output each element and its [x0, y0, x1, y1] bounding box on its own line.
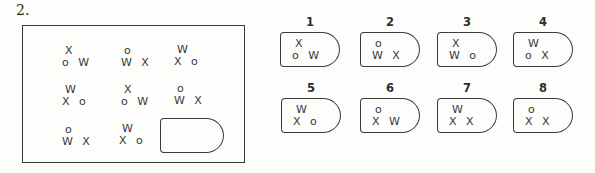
cell-bottom-letters: o W — [62, 57, 90, 68]
puzzle-matrix-box: X o W o W X W X o W X o X o W o W X o W … — [22, 25, 245, 163]
option-top-letter: X — [295, 38, 339, 49]
option-shape-3[interactable]: X W o — [437, 32, 497, 67]
option-5: 5 W X o — [281, 80, 341, 133]
option-bottom-letters: X X — [525, 116, 572, 127]
cell-top-letter: W — [177, 44, 198, 55]
matrix-cell-4: W X o — [62, 84, 86, 107]
cell-bottom-letters: o W — [121, 96, 149, 107]
puzzle-page: 2. X o W o W X W X o W X o X o W o W X o… — [0, 0, 595, 173]
cell-top-letter: W — [65, 84, 86, 95]
option-bottom-letters: X o — [293, 116, 340, 127]
option-top-letter: W — [452, 104, 496, 115]
option-4: 4 W o X — [513, 14, 573, 67]
option-shape-2[interactable]: o W X — [360, 32, 420, 67]
option-2: 2 o W X — [360, 14, 420, 67]
option-number: 7 — [437, 80, 497, 96]
option-8: 8 o X X — [513, 80, 573, 133]
cell-bottom-letters: X o — [174, 56, 198, 67]
option-number: 8 — [513, 80, 573, 96]
matrix-cell-1: X o W — [62, 45, 90, 68]
cell-bottom-letters: X o — [62, 96, 86, 107]
option-7: 7 W X X — [437, 80, 497, 133]
cell-top-letter: o — [124, 45, 149, 56]
option-number: 6 — [360, 80, 420, 96]
cell-top-letter: o — [65, 124, 90, 135]
option-bottom-letters: W X — [372, 50, 419, 61]
cell-bottom-letters: W X — [174, 95, 202, 106]
option-top-letter: W — [296, 104, 340, 115]
cell-top-letter: W — [122, 123, 143, 134]
option-number: 4 — [513, 14, 573, 30]
option-top-letter: o — [375, 104, 419, 115]
option-bottom-letters: o W — [292, 50, 339, 61]
option-top-letter: o — [528, 104, 572, 115]
option-top-letter: W — [528, 38, 572, 49]
option-number: 3 — [437, 14, 497, 30]
option-shape-7[interactable]: W X X — [437, 98, 497, 133]
cell-top-letter: X — [124, 84, 149, 95]
answer-blank-slot — [160, 118, 224, 153]
option-top-letter: o — [375, 38, 419, 49]
option-top-letter: X — [452, 38, 496, 49]
option-shape-5[interactable]: W X o — [281, 98, 341, 133]
option-1: 1 X o W — [280, 14, 340, 67]
option-number: 5 — [281, 80, 341, 96]
option-shape-8[interactable]: o X X — [513, 98, 573, 133]
matrix-cell-8: W X o — [119, 123, 143, 146]
option-number: 1 — [280, 14, 340, 30]
option-shape-1[interactable]: X o W — [280, 32, 340, 67]
matrix-cell-7: o W X — [62, 124, 90, 147]
option-bottom-letters: W o — [449, 50, 496, 61]
option-bottom-letters: X X — [449, 116, 496, 127]
option-number: 2 — [360, 14, 420, 30]
option-bottom-letters: X W — [372, 116, 419, 127]
option-shape-4[interactable]: W o X — [513, 32, 573, 67]
cell-bottom-letters: W X — [62, 136, 90, 147]
cell-top-letter: o — [177, 83, 202, 94]
matrix-cell-3: W X o — [174, 44, 198, 67]
matrix-cell-5: X o W — [121, 84, 149, 107]
matrix-cell-6: o W X — [174, 83, 202, 106]
problem-number: 2. — [16, 2, 29, 18]
option-bottom-letters: o X — [525, 50, 572, 61]
cell-top-letter: X — [65, 45, 90, 56]
option-3: 3 X W o — [437, 14, 497, 67]
cell-bottom-letters: X o — [119, 135, 143, 146]
option-6: 6 o X W — [360, 80, 420, 133]
option-shape-6[interactable]: o X W — [360, 98, 420, 133]
cell-bottom-letters: W X — [121, 57, 149, 68]
matrix-cell-2: o W X — [121, 45, 149, 68]
